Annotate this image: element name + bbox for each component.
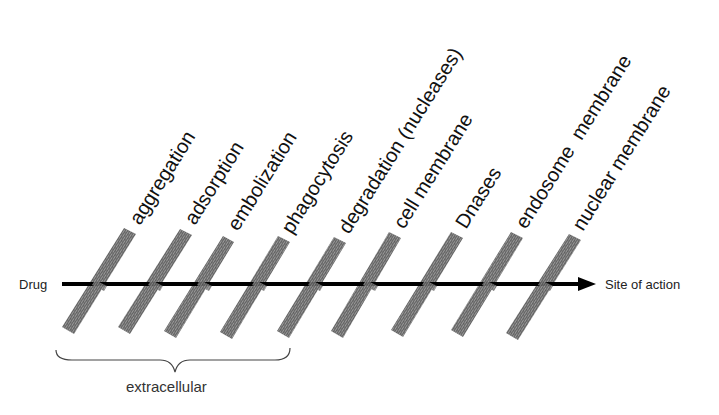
barrier-label: endosome membrane bbox=[511, 51, 636, 232]
barrier-bar-degradation bbox=[277, 237, 346, 338]
extracellular-brace bbox=[56, 348, 290, 372]
drug-path-arrow bbox=[62, 277, 596, 291]
barrier-bar-phagocytosis bbox=[220, 236, 290, 339]
barrier-label: Dnases bbox=[451, 163, 506, 232]
drug-label: Drug bbox=[19, 277, 47, 292]
site-of-action-label: Site of action bbox=[605, 277, 680, 292]
arrowhead-icon bbox=[578, 277, 596, 291]
extracellular-label: extracellular bbox=[126, 378, 207, 395]
barrier-labels: aggregation adsorption embolization phag… bbox=[125, 43, 675, 237]
barrier-diagram: Drug Site of action aggregation adsorpti… bbox=[0, 0, 719, 415]
